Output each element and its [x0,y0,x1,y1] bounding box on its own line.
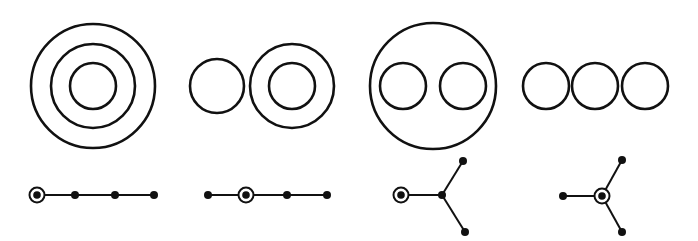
tree-edge [442,161,463,195]
panel-2 [190,44,334,203]
panel-4 [523,63,668,236]
tree-node [71,191,79,199]
diagram-canvas [0,0,698,241]
set-circles [370,23,496,149]
tree-node [618,228,626,236]
set-circle [31,24,155,148]
tree-node [150,191,158,199]
tree-node [559,192,567,200]
tree-edge [442,195,465,232]
set-circle [269,63,315,109]
set-circle [250,44,334,128]
tree-node [283,191,291,199]
tree-node [461,228,469,236]
panel-1 [30,24,159,203]
tree-node [459,157,467,165]
tree-node [438,191,446,199]
tree-node [618,156,626,164]
set-circles [190,44,334,128]
diagram-svg [0,0,698,241]
set-circle [70,63,116,109]
root-node [397,191,405,199]
root-node [33,191,41,199]
set-circle [572,63,618,109]
set-circle [51,44,135,128]
tree-node [323,191,331,199]
set-circles [31,24,155,148]
set-circle [523,63,569,109]
set-circle [370,23,496,149]
panel-3 [370,23,496,236]
tree [394,157,470,236]
root-node [598,192,606,200]
tree-node [204,191,212,199]
set-circle [190,59,244,113]
tree [559,156,626,236]
set-circle [622,63,668,109]
set-circles [523,63,668,109]
tree-node [111,191,119,199]
set-circle [440,63,486,109]
tree [204,188,331,203]
tree [30,188,159,203]
set-circle [380,63,426,109]
root-node [242,191,250,199]
